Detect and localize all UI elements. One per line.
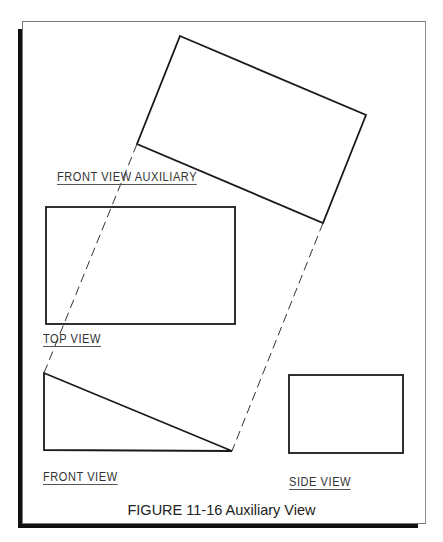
label-front-view: FRONT VIEW xyxy=(43,471,118,485)
projection-line-right xyxy=(232,223,323,451)
drawing-canvas xyxy=(0,0,443,542)
auxiliary-view-rectangle xyxy=(137,36,366,223)
side-view-rectangle xyxy=(289,375,403,453)
front-view-triangle xyxy=(44,373,232,451)
label-side-view: SIDE VIEW xyxy=(289,476,351,490)
label-front-view-auxiliary: FRONT VIEW AUXILIARY xyxy=(57,171,197,185)
label-top-view: TOP VIEW xyxy=(43,333,101,347)
top-view-rectangle xyxy=(46,207,235,324)
figure-caption: FIGURE 11-16 Auxiliary View xyxy=(0,502,443,518)
